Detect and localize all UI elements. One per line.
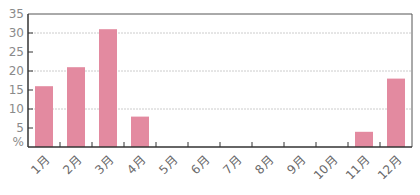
x-tick-label-6: 6月 — [188, 153, 212, 177]
gridlines — [28, 33, 412, 109]
y-tick-label-25: 25 — [9, 45, 24, 59]
x-tick-label-7: 7月 — [220, 153, 244, 177]
y-tick-labels: 5101520253035 — [9, 7, 24, 135]
x-tick-label-5: 5月 — [156, 153, 180, 177]
y-tick-label-20: 20 — [9, 64, 24, 78]
x-tick-label-3: 3月 — [92, 153, 116, 177]
x-tick-label-8: 8月 — [252, 153, 276, 177]
x-tick-label-2: 2月 — [60, 153, 84, 177]
bar-1 — [35, 86, 53, 147]
x-tick-label-11: 11月 — [343, 153, 372, 182]
x-tick-label-1: 1月 — [28, 153, 52, 177]
bar-chart: 5101520253035 % 1月2月3月4月5月6月7月8月9月10月11月… — [0, 0, 420, 195]
bar-11 — [355, 132, 373, 147]
bar-3 — [99, 29, 117, 147]
x-tick-labels: 1月2月3月4月5月6月7月8月9月10月11月12月 — [28, 153, 404, 182]
y-tick-label-5: 5 — [16, 121, 24, 135]
x-tick-label-9: 9月 — [284, 153, 308, 177]
bar-12 — [387, 79, 405, 147]
y-tick-label-10: 10 — [9, 102, 24, 116]
x-tick-label-4: 4月 — [124, 153, 148, 177]
axes — [28, 14, 412, 147]
y-tick-label-30: 30 — [9, 26, 24, 40]
x-tick-label-10: 10月 — [311, 153, 340, 182]
bars — [35, 29, 405, 147]
bar-2 — [67, 67, 85, 147]
x-tick-label-12: 12月 — [375, 153, 404, 182]
y-tick-label-35: 35 — [9, 7, 24, 21]
y-tick-label-15: 15 — [9, 83, 24, 97]
bar-4 — [131, 117, 149, 147]
y-unit-label: % — [13, 135, 24, 149]
